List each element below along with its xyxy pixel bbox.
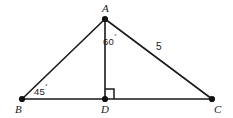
segment-AC xyxy=(105,19,212,99)
vertex-dot-D xyxy=(102,96,108,102)
triangle-figure xyxy=(0,0,233,118)
angle-value-ABD: 45 xyxy=(34,86,45,97)
degree-symbol-icon: ˚ xyxy=(45,84,47,91)
angle-label-DAC: 60˚ xyxy=(103,36,116,47)
vertex-label-B: B xyxy=(15,104,22,115)
angle-value-DAC: 60 xyxy=(103,36,114,47)
angle-label-ABD: 45˚ xyxy=(34,86,47,97)
vertex-dot-A xyxy=(102,16,108,22)
vertex-dot-B xyxy=(19,96,25,102)
vertex-dot-C xyxy=(209,96,215,102)
vertex-label-C: C xyxy=(214,104,221,115)
side-length-label-AC: 5 xyxy=(156,42,162,52)
geometry-diagram-canvas: A B D C 60˚ 45˚ 5 xyxy=(0,0,233,118)
vertex-label-D: D xyxy=(101,104,109,115)
vertex-label-A: A xyxy=(102,3,109,14)
degree-symbol-icon: ˚ xyxy=(114,34,116,41)
